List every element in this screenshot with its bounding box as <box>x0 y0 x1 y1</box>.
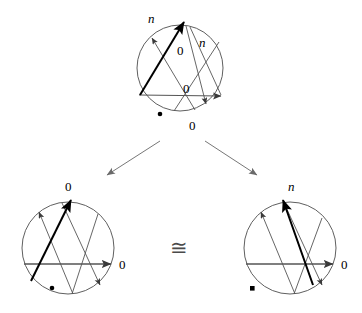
top-label-n-outer: n <box>148 12 155 25</box>
figure-root: n n 0 0 0 0 0 n 0 ≅ <box>0 0 362 313</box>
arrow-top-to-bottom-left <box>107 141 160 175</box>
br-chord-thin-rightdown <box>294 218 322 294</box>
top-chord-heavy-apex <box>140 22 184 95</box>
top-label-zero-bottom: 0 <box>189 119 196 132</box>
br-chord-thin-downright <box>284 203 322 285</box>
bottom-left-label-zero-top: 0 <box>65 180 72 193</box>
top-circle-outline <box>137 25 223 111</box>
bottom-right-label-zero-right: 0 <box>341 258 348 271</box>
bottom-left-chord-diagram <box>22 200 114 294</box>
bottom-right-label-n-top: n <box>288 180 295 193</box>
bottom-left-label-zero-right: 0 <box>119 258 126 271</box>
br-basepoint-square <box>250 286 255 291</box>
bl-basepoint-dot <box>50 286 55 291</box>
top-chord-thin-upleft <box>152 38 195 110</box>
top-label-zero-middle: 0 <box>183 82 190 95</box>
bl-chord-thin-downright <box>62 203 100 285</box>
bottom-right-chord-diagram <box>244 200 336 294</box>
top-label-zero-upper: 0 <box>177 44 184 57</box>
arrow-top-to-bottom-right <box>205 141 257 175</box>
bl-chord-thin-rightdown <box>72 214 98 294</box>
br-chord-thin-upleft <box>261 212 295 294</box>
congruence-symbol: ≅ <box>170 238 188 259</box>
br-chord-heavy-top <box>283 200 313 285</box>
top-chord-diagram <box>137 22 223 116</box>
top-chord-horizontal <box>139 95 221 96</box>
top-label-n-inner: n <box>199 36 206 49</box>
top-basepoint-dot <box>158 112 163 117</box>
bl-chord-heavy-top <box>31 200 71 281</box>
